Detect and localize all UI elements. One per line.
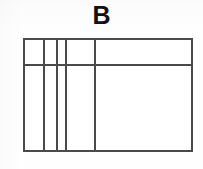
panel-label: B xyxy=(0,2,203,28)
cell-r2-c2 xyxy=(45,66,56,150)
cell-r2-c5 xyxy=(96,66,191,150)
cell-r2-c1 xyxy=(25,66,43,150)
cell-r1-c4 xyxy=(67,40,94,64)
cell-r2-c4 xyxy=(67,66,94,150)
cell-r1-c3 xyxy=(58,40,65,64)
cell-r2-c3 xyxy=(58,66,65,150)
cell-r1-c1 xyxy=(25,40,43,64)
cell-r1-c2 xyxy=(45,40,56,64)
figure-panel: B xyxy=(0,0,203,169)
cell-r1-c5 xyxy=(96,40,191,64)
partitioned-rectangle-diagram xyxy=(23,38,193,152)
